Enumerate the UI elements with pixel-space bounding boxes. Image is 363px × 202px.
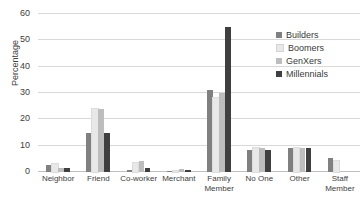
bar <box>127 170 133 172</box>
bar <box>92 109 98 172</box>
bar-group <box>86 14 110 172</box>
bar <box>294 148 300 172</box>
y-tick-label-0: 0 <box>0 167 30 176</box>
legend-item[interactable]: Builders <box>276 28 362 41</box>
bar <box>225 27 231 172</box>
x-tick-label: Staff Member <box>320 174 360 194</box>
x-tick-label: Neighbor <box>38 174 78 184</box>
legend-swatch-icon <box>276 44 284 52</box>
bar <box>46 165 52 172</box>
bar-group <box>127 14 151 172</box>
x-tick-label: No One <box>239 174 279 184</box>
bar <box>104 133 110 173</box>
legend-item-label: Millennials <box>286 69 328 79</box>
bar <box>133 163 139 172</box>
bar <box>145 168 151 172</box>
x-tick-label: Other <box>280 174 320 184</box>
bar <box>247 150 253 172</box>
bar <box>265 150 271 172</box>
bar <box>179 169 185 172</box>
y-tick-label-10: 10 <box>0 141 30 150</box>
y-tick-label-30: 30 <box>0 88 30 97</box>
bar <box>185 170 191 172</box>
x-tick-label: Co-worker <box>119 174 159 184</box>
bar <box>207 90 213 172</box>
bar <box>52 164 58 172</box>
bar <box>219 93 225 172</box>
chart-legend: BuildersBoomersGenXersMillennials <box>276 28 362 80</box>
bar <box>253 148 259 172</box>
y-tick-label-60: 60 <box>0 9 30 18</box>
legend-item[interactable]: Boomers <box>276 41 362 54</box>
legend-item-label: Boomers <box>288 43 324 53</box>
legend-swatch-icon <box>276 58 282 64</box>
bar <box>98 109 104 172</box>
bar <box>86 133 92 173</box>
legend-item[interactable]: Millennials <box>276 67 362 80</box>
bar <box>213 98 219 172</box>
bar <box>64 168 70 172</box>
y-axis-tick-labels: 0102030405060 <box>0 14 34 172</box>
bar <box>328 158 334 172</box>
bar-chart: Percentage 0102030405060 NeighborFriendC… <box>0 0 363 202</box>
x-tick-label: Merchant <box>159 174 199 184</box>
bar <box>167 171 173 172</box>
x-tick-label: Friend <box>78 174 118 184</box>
bar <box>58 168 64 172</box>
bar-group <box>46 14 70 172</box>
legend-item-label: GenXers <box>286 56 322 66</box>
bar <box>334 161 340 172</box>
legend-swatch-icon <box>276 71 282 77</box>
x-tick-label: Family Member <box>199 174 239 194</box>
bar <box>288 148 294 172</box>
legend-item[interactable]: GenXers <box>276 54 362 67</box>
bar <box>306 148 312 172</box>
bar-group <box>167 14 191 172</box>
bar <box>139 161 145 172</box>
legend-item-label: Builders <box>286 30 319 40</box>
bar <box>300 148 306 172</box>
bar <box>259 148 265 172</box>
bar-group <box>207 14 231 172</box>
y-tick-label-40: 40 <box>0 62 30 71</box>
x-axis-tick-labels: NeighborFriendCo-workerMerchantFamily Me… <box>38 174 360 202</box>
bar-group <box>247 14 271 172</box>
bar <box>173 171 179 172</box>
y-tick-label-20: 20 <box>0 114 30 123</box>
legend-swatch-icon <box>276 32 282 38</box>
y-tick-label-50: 50 <box>0 35 30 44</box>
